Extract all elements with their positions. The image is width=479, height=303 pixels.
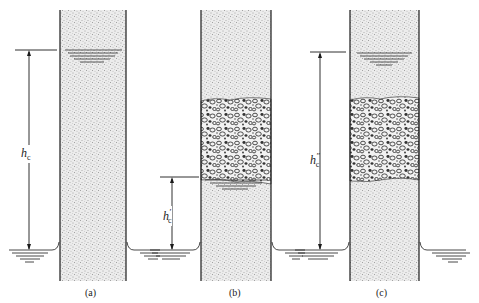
caption-c: (c) <box>376 287 387 298</box>
soil-column-a <box>60 10 126 281</box>
height-label-b: h′c <box>163 206 172 226</box>
gravel-layer-c <box>350 97 419 182</box>
free-water-surface-left-b <box>150 242 200 259</box>
panel-b <box>150 10 305 281</box>
panel-a <box>9 10 160 281</box>
capillary-rise-diagram <box>0 0 479 303</box>
caption-b: (b) <box>229 287 241 298</box>
height-label-a: hc <box>21 145 31 163</box>
height-subscript: c <box>168 216 172 225</box>
panel-c <box>295 10 470 281</box>
free-water-surface-right-c <box>420 242 470 262</box>
free-water-surface-right-b <box>272 242 305 259</box>
free-water-surface-left-c <box>295 242 349 259</box>
free-water-surface-right-a <box>127 242 160 259</box>
caption-a: (a) <box>85 287 96 298</box>
height-subscript: c <box>27 153 31 162</box>
gravel-layer-b <box>201 98 271 184</box>
height-label-c: h″c <box>310 150 319 170</box>
height-subscript: c <box>316 160 320 169</box>
free-water-surface-left-a <box>9 242 59 262</box>
